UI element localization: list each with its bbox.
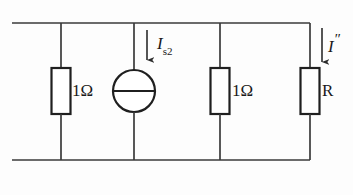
resistor-2-label: 1Ω (232, 82, 253, 99)
current-label-is2: Is2 (157, 35, 172, 55)
current-label-is2-symbol: I (157, 34, 163, 53)
resistor-2-body (211, 68, 230, 114)
current-label-ipp-prime: ″ (334, 31, 340, 47)
circuit-diagram-canvas: 1Ω 1Ω R Is2 I″ (0, 0, 353, 195)
resistor-R-body (301, 68, 320, 114)
current-label-ipp-symbol: I (328, 37, 334, 56)
current-label-ipp: I″ (328, 33, 340, 55)
resistor-1-body (52, 68, 71, 114)
resistor-R-label: R (322, 82, 333, 99)
circuit-schematic-svg (0, 0, 353, 195)
resistor-1-label: 1Ω (72, 82, 93, 99)
current-label-is2-subscript: s2 (163, 45, 173, 57)
